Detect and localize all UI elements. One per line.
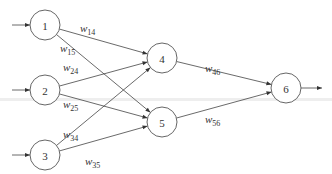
node-2: 2 <box>30 75 60 105</box>
node-label: 4 <box>159 53 165 65</box>
node-label: 1 <box>42 20 48 32</box>
weight-label-34: w34 <box>63 128 78 143</box>
edge-5-6 <box>176 92 271 118</box>
weight-subscript: 14 <box>87 28 95 37</box>
node-label: 3 <box>42 150 48 162</box>
node-4: 4 <box>147 43 177 73</box>
weight-label-35: w35 <box>85 155 100 170</box>
node-6: 6 <box>271 73 301 103</box>
weight-subscript: 15 <box>67 48 75 57</box>
weight-subscript: 24 <box>70 67 78 76</box>
weight-subscript: 56 <box>212 119 220 128</box>
weight-subscript: 25 <box>70 104 78 113</box>
node-label: 2 <box>42 85 48 97</box>
node-1: 1 <box>30 10 60 40</box>
weight-label-24: w24 <box>63 61 78 76</box>
weight-label-14: w14 <box>80 22 95 37</box>
weight-subscript: 35 <box>92 161 100 170</box>
weight-label-56: w56 <box>205 113 220 128</box>
weight-subscript: 34 <box>70 134 78 143</box>
node-label: 6 <box>283 83 289 95</box>
weight-label-46: w46 <box>205 62 220 77</box>
node-label: 5 <box>159 117 165 129</box>
nodes-layer: 123456 <box>30 10 301 170</box>
neural-network-diagram: 123456 w14w15w24w25w34w35w46w56 <box>0 0 332 174</box>
edge-4-6 <box>177 62 272 85</box>
node-5: 5 <box>147 107 177 137</box>
node-3: 3 <box>30 140 60 170</box>
weight-subscript: 46 <box>212 68 220 77</box>
weight-labels-layer: w14w15w24w25w34w35w46w56 <box>60 22 220 170</box>
